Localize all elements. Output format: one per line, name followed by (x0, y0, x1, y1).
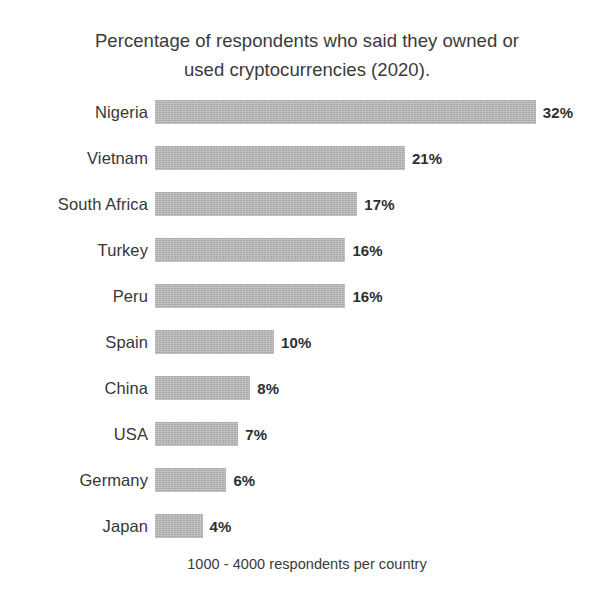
bar-fill[interactable] (155, 376, 250, 400)
bar-row[interactable]: South Africa17% (0, 188, 614, 220)
bar-category-label: Vietnam (0, 149, 148, 168)
bar-row[interactable]: Germany6% (0, 464, 614, 496)
bar-row[interactable]: Peru16% (0, 280, 614, 312)
plot-area: Nigeria32%Vietnam21%South Africa17%Turke… (0, 96, 614, 536)
bar-track: 4% (155, 514, 231, 538)
bar-category-label: Japan (0, 517, 148, 536)
bar-category-label: China (0, 379, 148, 398)
bar-fill[interactable] (155, 192, 357, 216)
bar-fill[interactable] (155, 238, 345, 262)
bar-track: 6% (155, 468, 255, 492)
chart-title: Percentage of respondents who said they … (52, 26, 562, 84)
bar-fill[interactable] (155, 422, 238, 446)
bar-category-label: Peru (0, 287, 148, 306)
bar-row[interactable]: Spain10% (0, 326, 614, 358)
bar-category-label: Spain (0, 333, 148, 352)
bar-track: 21% (155, 146, 442, 170)
bar-row[interactable]: China8% (0, 372, 614, 404)
chart-footnote: 1000 - 4000 respondents per country (0, 556, 614, 572)
bar-value-label: 8% (257, 380, 279, 397)
bar-fill[interactable] (155, 146, 405, 170)
bar-track: 32% (155, 100, 573, 124)
chart-title-line-2: used cryptocurrencies (2020). (52, 55, 562, 84)
bar-track: 10% (155, 330, 311, 354)
bar-value-label: 17% (364, 196, 394, 213)
bar-category-label: Germany (0, 471, 148, 490)
bar-category-label: Nigeria (0, 103, 148, 122)
bar-fill[interactable] (155, 330, 274, 354)
bar-track: 17% (155, 192, 395, 216)
bar-value-label: 21% (412, 150, 442, 167)
bar-fill[interactable] (155, 100, 536, 124)
bar-track: 7% (155, 422, 267, 446)
bar-value-label: 4% (210, 518, 232, 535)
bar-fill[interactable] (155, 284, 345, 308)
bar-chart-figure: Percentage of respondents who said they … (0, 0, 614, 597)
bar-fill[interactable] (155, 468, 226, 492)
bar-category-label: Turkey (0, 241, 148, 260)
bar-row[interactable]: Japan4% (0, 510, 614, 542)
bar-value-label: 10% (281, 334, 311, 351)
bar-value-label: 7% (245, 426, 267, 443)
bar-fill[interactable] (155, 514, 203, 538)
chart-title-line-1: Percentage of respondents who said they … (52, 26, 562, 55)
bar-track: 16% (155, 284, 383, 308)
bar-track: 8% (155, 376, 279, 400)
bar-category-label: South Africa (0, 195, 148, 214)
bar-track: 16% (155, 238, 383, 262)
bar-row[interactable]: USA7% (0, 418, 614, 450)
bar-value-label: 16% (352, 288, 382, 305)
bar-row[interactable]: Nigeria32% (0, 96, 614, 128)
bar-category-label: USA (0, 425, 148, 444)
bar-value-label: 6% (233, 472, 255, 489)
bar-row[interactable]: Vietnam21% (0, 142, 614, 174)
bar-value-label: 16% (352, 242, 382, 259)
bar-row[interactable]: Turkey16% (0, 234, 614, 266)
bar-value-label: 32% (543, 104, 573, 121)
